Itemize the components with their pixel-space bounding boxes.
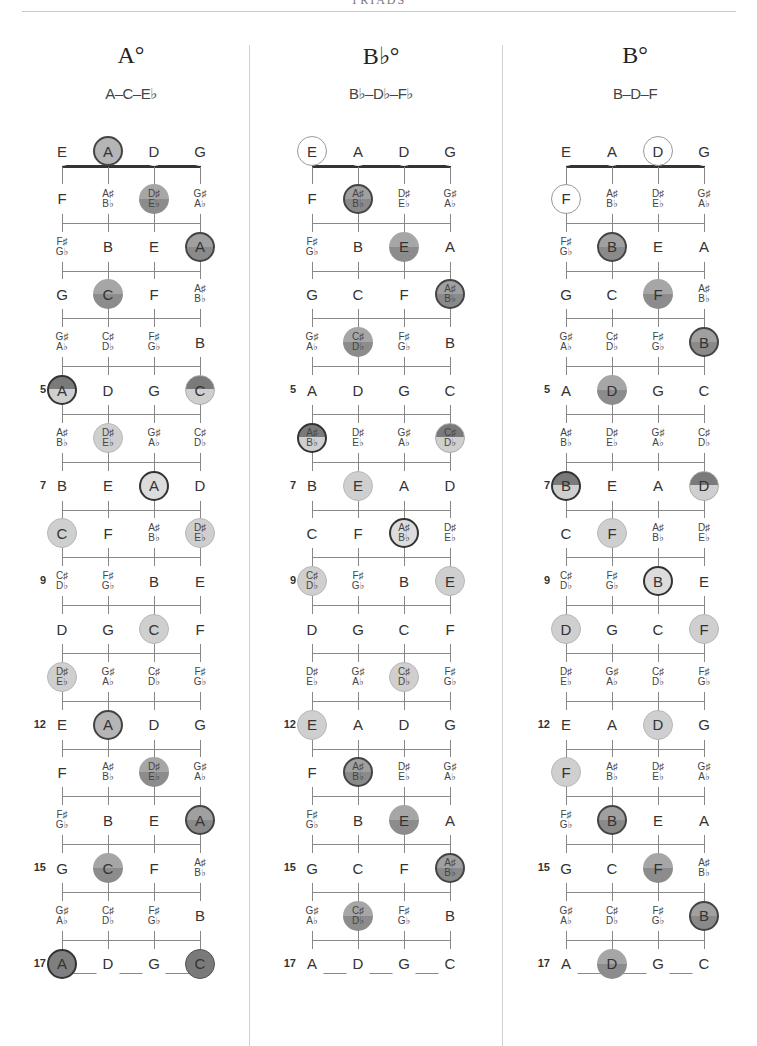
fret-wire xyxy=(312,462,451,463)
fret-number: 15 xyxy=(276,861,296,873)
note-label: B♭ xyxy=(102,199,113,209)
fret-note: D♯E♭ xyxy=(597,423,627,453)
nut xyxy=(312,165,451,168)
fret-number: 9 xyxy=(26,574,46,586)
fret-wire xyxy=(312,557,451,558)
fret-note: C♯D♭ xyxy=(597,901,627,931)
fret-note: C♯D♭ xyxy=(93,327,123,357)
fret-wire xyxy=(312,605,451,606)
note-label: D xyxy=(353,956,364,971)
fret-wire xyxy=(62,557,201,558)
note-label: E♭ xyxy=(56,677,67,687)
fret-wire xyxy=(62,653,201,654)
note-label: G xyxy=(652,956,664,971)
note-label: D xyxy=(653,717,664,732)
note-label: B xyxy=(353,813,363,828)
note-label: G♭ xyxy=(352,581,365,591)
fret-wire xyxy=(312,796,451,797)
fret-note: G xyxy=(185,710,215,740)
fret-note: G♯A♭ xyxy=(597,662,627,692)
note-label: F xyxy=(307,191,316,206)
chord-tone-marker: D♯E♭ xyxy=(93,423,123,453)
note-label: D xyxy=(399,717,410,732)
note-label: B♭ xyxy=(102,772,113,782)
fret-note: A♯B♭ xyxy=(597,184,627,214)
fret-note: G♯A♭ xyxy=(185,184,215,214)
note-label: C xyxy=(445,383,456,398)
fret-note: F♯G♭ xyxy=(389,327,419,357)
note-label: G xyxy=(148,956,160,971)
fret-note: C xyxy=(435,375,465,405)
note-label: C xyxy=(195,956,206,971)
note-label: E♭ xyxy=(560,677,571,687)
note-label: E xyxy=(353,478,363,493)
note-label: C xyxy=(607,287,618,302)
fret-note: A♯B♭ xyxy=(689,853,719,883)
note-label: B xyxy=(607,813,617,828)
note-label: A xyxy=(699,239,709,254)
note-label: D♭ xyxy=(698,438,710,448)
fret-number: 7 xyxy=(26,479,46,491)
note-label: A♭ xyxy=(194,199,205,209)
fret-number: 5 xyxy=(530,383,550,395)
fret-note: D xyxy=(435,471,465,501)
fret-note: D xyxy=(47,614,77,644)
chord-tone-marker: A xyxy=(93,136,123,166)
fret-note: G xyxy=(343,614,373,644)
note-label: B xyxy=(353,239,363,254)
fret-note: C xyxy=(343,853,373,883)
note-label: D xyxy=(195,478,206,493)
fret-number: 7 xyxy=(530,479,550,491)
note-label: A xyxy=(353,717,363,732)
note-label: A♭ xyxy=(306,342,317,352)
note-label: A xyxy=(399,478,409,493)
fret-note: G♯A♭ xyxy=(551,901,581,931)
fret-wire xyxy=(566,462,705,463)
fret-note: G xyxy=(93,614,123,644)
note-label: B xyxy=(699,335,709,350)
note-label: B xyxy=(445,908,455,923)
note-label: D♭ xyxy=(398,677,410,687)
fret-note: D♯E♭ xyxy=(343,423,373,453)
note-label: G xyxy=(652,383,664,398)
chord-tone-marker: D♯E♭ xyxy=(139,184,169,214)
note-label: B♭ xyxy=(698,294,709,304)
note-label: C xyxy=(399,622,410,637)
note-label: B♭ xyxy=(56,438,67,448)
fret-note: D xyxy=(343,375,373,405)
fret-note: A xyxy=(597,136,627,166)
fret-note: A xyxy=(389,471,419,501)
fret-note: D♯E♭ xyxy=(389,184,419,214)
note-label: B xyxy=(103,239,113,254)
note-label: G♭ xyxy=(652,916,665,926)
note-label: F xyxy=(653,287,662,302)
fret-note: C♯D♭ xyxy=(551,566,581,596)
note-label: B xyxy=(195,908,205,923)
note-label: C xyxy=(195,383,206,398)
note-label: A♭ xyxy=(148,438,159,448)
note-label: E♭ xyxy=(398,772,409,782)
fret-wire xyxy=(62,844,201,845)
note-label: A♭ xyxy=(698,772,709,782)
note-label: F xyxy=(307,765,316,780)
note-label: D♭ xyxy=(102,916,114,926)
fret-wire xyxy=(62,414,201,415)
note-label: C xyxy=(353,861,364,876)
note-label: A♭ xyxy=(194,772,205,782)
fret-note: E xyxy=(551,136,581,166)
note-label: B♭ xyxy=(444,868,455,878)
note-label: G xyxy=(56,287,68,302)
fret-wire xyxy=(566,318,705,319)
note-label: E xyxy=(103,478,113,493)
fret-note: G♯A♭ xyxy=(47,901,77,931)
note-label: E xyxy=(307,144,317,159)
chord-panel-bb-dim: B♭° B♭–D♭–F♭ EADGFA♯B♭D♯E♭G♯A♭F♯G♭BEAGCF… xyxy=(256,0,506,1046)
fret-note: G xyxy=(689,710,719,740)
note-label: D xyxy=(103,956,114,971)
fret-note: F xyxy=(139,853,169,883)
note-label: A♭ xyxy=(652,438,663,448)
note-label: E♭ xyxy=(102,438,113,448)
note-label: E xyxy=(195,574,205,589)
fret-wire xyxy=(62,223,201,224)
fret-note: D xyxy=(389,136,419,166)
